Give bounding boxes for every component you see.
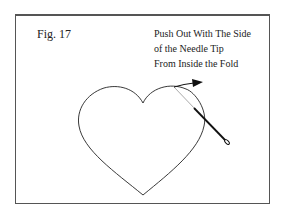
heart-outline-icon — [78, 86, 204, 195]
illustration — [0, 0, 290, 212]
arrow-icon — [174, 79, 203, 87]
needle-icon — [174, 87, 230, 145]
